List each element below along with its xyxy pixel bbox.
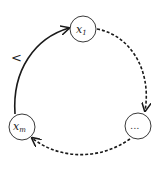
cycle-diagram: < x1 ... xm <box>0 0 164 171</box>
edge-xm-to-x1 <box>15 28 69 114</box>
node-ellipsis: ... <box>125 113 151 139</box>
edge-x1-to-dots <box>97 29 146 111</box>
node-x1: x1 <box>70 16 96 42</box>
node-x1-subscript: 1 <box>82 29 86 37</box>
node-ellipsis-label: ... <box>130 120 140 131</box>
node-xm: xm <box>9 114 35 140</box>
node-xm-subscript: m <box>19 126 26 134</box>
edge-label-less-than: < <box>11 50 22 65</box>
edge-dots-to-xm <box>32 138 130 155</box>
